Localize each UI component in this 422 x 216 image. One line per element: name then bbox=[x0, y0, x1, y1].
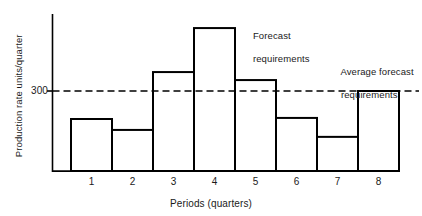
x-axis-tick-label-7: 7 bbox=[328, 176, 348, 188]
x-axis-tick-label-8: 8 bbox=[369, 176, 389, 188]
x-axis-tick-label-1: 1 bbox=[82, 176, 102, 188]
annotation-average-line1: Average forecast bbox=[340, 66, 413, 77]
x-axis-tick-label-3: 3 bbox=[164, 176, 184, 188]
y-axis-tick-label-300: 300 bbox=[22, 85, 48, 97]
bar-period-7[interactable] bbox=[317, 137, 358, 171]
x-axis-tick-label-5: 5 bbox=[246, 176, 266, 188]
bar-period-2[interactable] bbox=[112, 130, 153, 171]
annotation-average-line2: requirements bbox=[341, 89, 398, 100]
production-rate-bar-chart: Production rate units/quarter 300 1 2 3 … bbox=[0, 0, 422, 216]
x-axis-title: Periods (quarters) bbox=[0, 198, 422, 210]
bar-period-4[interactable] bbox=[194, 28, 235, 171]
annotation-forecast-line1: Forecast bbox=[253, 30, 291, 41]
bar-period-3[interactable] bbox=[153, 72, 194, 171]
x-axis-tick-label-4: 4 bbox=[205, 176, 225, 188]
bar-period-6[interactable] bbox=[276, 118, 317, 171]
annotation-forecast-line2: requirements bbox=[253, 53, 310, 64]
annotation-average-forecast-requirements: Average forecast requirements bbox=[330, 54, 414, 112]
bar-period-5[interactable] bbox=[235, 80, 276, 171]
x-axis-tick-label-2: 2 bbox=[123, 176, 143, 188]
x-axis-tick-label-6: 6 bbox=[287, 176, 307, 188]
annotation-forecast-requirements: Forecast requirements bbox=[242, 18, 310, 76]
bar-period-1[interactable] bbox=[71, 119, 112, 171]
